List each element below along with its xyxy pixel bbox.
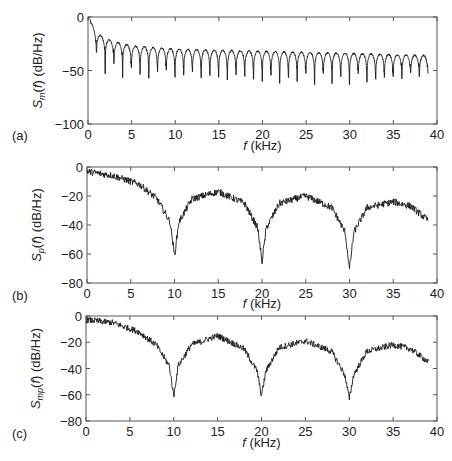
y-axis-label: Sm(f) (dB/Hz) bbox=[30, 32, 47, 108]
spectrum-figure: 05101520253035400−50−100f (kHz)Sm(f) (dB… bbox=[0, 0, 452, 461]
panel-label: (b) bbox=[12, 288, 28, 303]
x-tick-label: 25 bbox=[299, 127, 313, 142]
y-tick-label: −60 bbox=[61, 247, 83, 262]
panel-label: (c) bbox=[12, 426, 27, 441]
y-tick-label: −40 bbox=[60, 362, 82, 377]
y-axis-label: Sp(f) (dB/Hz) bbox=[29, 188, 46, 262]
x-tick-label: 0 bbox=[82, 424, 89, 439]
spectrum-curve bbox=[86, 317, 428, 400]
x-tick-label: 40 bbox=[430, 127, 444, 142]
panel-b: 05101520253035400−20−40−60−80f (kHz)Sp(f… bbox=[12, 160, 444, 311]
x-tick-label: 5 bbox=[126, 424, 133, 439]
x-tick-label: 10 bbox=[167, 286, 181, 301]
x-tick-label: 10 bbox=[167, 424, 181, 439]
y-axis-label: Smp(f) (dB/Hz) bbox=[28, 328, 45, 409]
x-tick-label: 30 bbox=[342, 424, 356, 439]
y-tick-label: −60 bbox=[60, 388, 82, 403]
spectrum-curve bbox=[87, 169, 428, 269]
x-tick-label: 40 bbox=[430, 286, 444, 301]
y-tick-label: 0 bbox=[77, 10, 84, 25]
panel-c: 05101520253035400−20−40−60−80f (kHz)Smp(… bbox=[12, 309, 444, 450]
panel-a: 05101520253035400−50−100f (kHz)Sm(f) (dB… bbox=[12, 10, 444, 153]
x-tick-label: 25 bbox=[298, 424, 312, 439]
y-tick-label: −80 bbox=[60, 414, 82, 429]
x-tick-label: 30 bbox=[342, 286, 356, 301]
panel-label: (a) bbox=[12, 128, 28, 143]
x-tick-label: 15 bbox=[211, 286, 225, 301]
x-tick-label: 5 bbox=[128, 127, 135, 142]
x-tick-label: 15 bbox=[212, 127, 226, 142]
x-tick-label: 0 bbox=[83, 286, 90, 301]
y-tick-label: −20 bbox=[60, 335, 82, 350]
x-tick-label: 25 bbox=[299, 286, 313, 301]
x-tick-label: 5 bbox=[127, 286, 134, 301]
y-tick-label: 0 bbox=[76, 160, 83, 175]
x-tick-label: 0 bbox=[84, 127, 91, 142]
spectrum-curve bbox=[88, 17, 428, 85]
y-tick-label: 0 bbox=[75, 309, 82, 324]
x-axis-label: f (kHz) bbox=[243, 296, 281, 311]
x-axis-label: f (kHz) bbox=[243, 138, 281, 153]
y-tick-label: −50 bbox=[62, 64, 84, 79]
x-axis-label: f (kHz) bbox=[242, 435, 280, 450]
y-tick-label: −20 bbox=[61, 189, 83, 204]
x-tick-label: 10 bbox=[168, 127, 182, 142]
x-tick-label: 35 bbox=[386, 424, 400, 439]
x-tick-label: 35 bbox=[386, 286, 400, 301]
y-tick-label: −40 bbox=[61, 218, 83, 233]
y-tick-label: −100 bbox=[55, 117, 84, 132]
x-tick-label: 30 bbox=[343, 127, 357, 142]
x-tick-label: 40 bbox=[430, 424, 444, 439]
y-tick-label: −80 bbox=[61, 276, 83, 291]
x-tick-label: 35 bbox=[386, 127, 400, 142]
x-tick-label: 15 bbox=[210, 424, 224, 439]
